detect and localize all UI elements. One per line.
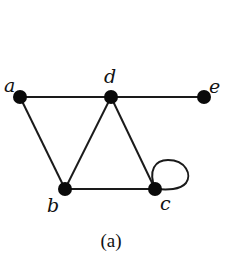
node-label-c: c	[160, 192, 171, 214]
edge-a-b	[20, 97, 65, 189]
node-b	[58, 182, 72, 196]
node-label-b: b	[47, 194, 59, 216]
node-d	[104, 90, 118, 104]
node-label-e: e	[209, 75, 220, 97]
graph-diagram: a d e b c (a)	[0, 0, 227, 258]
figure-caption: (a)	[100, 230, 121, 252]
edge-d-c	[111, 97, 155, 189]
edge-d-b	[65, 97, 111, 189]
node-label-a: a	[4, 74, 15, 96]
node-label-d: d	[104, 65, 116, 87]
